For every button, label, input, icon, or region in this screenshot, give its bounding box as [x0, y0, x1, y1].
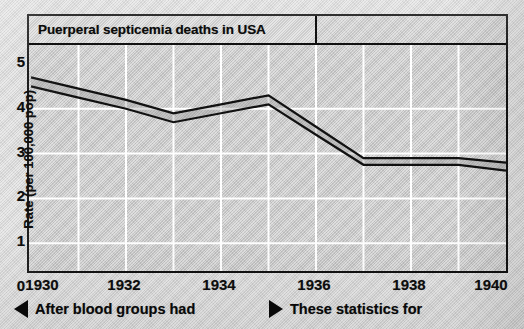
caption-right-text: These statistics for: [290, 301, 422, 317]
chart-frame: Puerperal septicemia deaths in USA: [27, 14, 508, 273]
triangle-left-icon: [14, 300, 28, 318]
x-tick-label: 1932: [107, 276, 140, 293]
y-axis-title: Rate (per 100,000 pop): [21, 90, 36, 229]
x-axis-tick-labels: 193019321934193619381940: [0, 276, 524, 296]
y-tick-label: 5: [3, 54, 25, 69]
caption-left-text: After blood groups had: [35, 301, 195, 317]
x-tick-label: 1930: [25, 276, 58, 293]
triangle-right-icon: [269, 300, 283, 318]
caption-left[interactable]: After blood groups had: [14, 300, 195, 318]
chart-title: Puerperal septicemia deaths in USA: [29, 22, 266, 37]
title-band-tail: [317, 16, 508, 45]
x-tick-label: 1934: [202, 276, 235, 293]
x-tick-label: 1936: [297, 276, 330, 293]
plot-area: [29, 45, 506, 271]
y-tick-label: 1: [3, 233, 25, 248]
chart-title-band: Puerperal septicemia deaths in USA: [29, 16, 317, 45]
captions-row: After blood groups had These statistics …: [0, 300, 524, 329]
caption-right[interactable]: These statistics for: [269, 300, 422, 318]
x-tick-label: 1938: [392, 276, 425, 293]
x-tick-label: 1940: [474, 276, 507, 293]
plot-svg: [29, 45, 508, 273]
